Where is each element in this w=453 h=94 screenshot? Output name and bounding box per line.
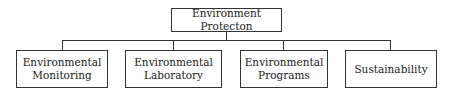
child-node-environmental-programs: Environmental Programs [240, 50, 328, 88]
child-label-line1: Environmental [134, 56, 213, 69]
child-label-line2: Laboratory [134, 69, 213, 82]
child-stem-2 [173, 40, 174, 50]
child-label-line1: Sustainability [354, 63, 427, 76]
child-label-line1: Environmental [245, 56, 324, 69]
root-node: Environment Protecton [171, 8, 282, 32]
child-stem-3 [283, 40, 284, 50]
root-label: Environment Protecton [172, 7, 281, 33]
horizontal-connector [62, 40, 391, 41]
child-stem-1 [62, 40, 63, 50]
child-node-environmental-laboratory: Environmental Laboratory [125, 50, 222, 88]
child-label-line2: Monitoring [23, 69, 102, 82]
child-node-sustainability: Sustainability [345, 50, 437, 88]
child-stem-4 [390, 40, 391, 50]
child-label-line1: Environmental [23, 56, 102, 69]
child-node-environmental-monitoring: Environmental Monitoring [16, 50, 108, 88]
child-label-line2: Programs [245, 69, 324, 82]
